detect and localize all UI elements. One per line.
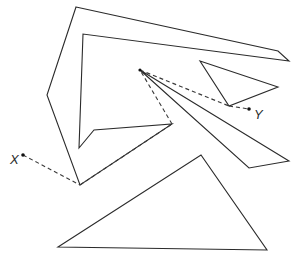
goal-label-y: Y xyxy=(254,107,264,122)
obstacle-bottom-triangle xyxy=(58,155,267,250)
path-segment xyxy=(229,106,249,109)
path-segment xyxy=(140,70,229,106)
convergence-vertex xyxy=(138,68,141,71)
obstacle-concave-large-polygon xyxy=(47,7,289,185)
start-label-x: X xyxy=(9,152,20,167)
start-point-x xyxy=(21,153,25,157)
goal-point-y xyxy=(247,107,251,111)
diagram-canvas: X Y xyxy=(0,0,297,268)
obstacle-long-sliver-quad xyxy=(140,70,289,168)
endpoints: X Y xyxy=(9,107,264,167)
path-segment xyxy=(23,155,80,185)
obstacles xyxy=(47,7,289,250)
path-segment xyxy=(140,70,172,124)
